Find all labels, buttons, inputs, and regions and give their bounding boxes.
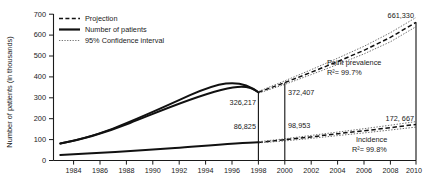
y-tick-label-500: 500 [34,51,46,60]
x-tick-label-1990: 1990 [145,166,161,175]
value-label-172667: 172, 667 [386,114,414,123]
annotation-incidence-r2: R²= 99.8% [352,145,387,154]
legend-label-projection: Projection [85,14,117,23]
y-axis-title: Number of patients (in thousands) [5,36,14,147]
annotation-incidence: Incidence [356,135,387,144]
value-label-98953: 98,953 [288,121,310,130]
x-tick-label-2004: 2004 [330,166,346,175]
x-tick-label-1988: 1988 [118,166,134,175]
x-axis-ticks: 1984 1986 1988 1990 1992 1994 1996 1998 … [66,161,422,176]
x-tick-label-2002: 2002 [303,166,319,175]
chart-container: Number of patients (in thousands) 0 100 … [0,0,428,185]
value-label-661330: 661,330 [388,11,414,20]
series-point-prevalence-observed [60,83,258,143]
y-tick-label-0: 0 [42,156,46,165]
value-label-372407: 372,407 [288,88,314,97]
x-tick-label-1998: 1998 [250,166,266,175]
y-tick-label-400: 400 [34,72,46,81]
legend-label-number-of-patients: Number of patients [85,25,147,34]
series-incidence-observed [60,142,258,155]
y-tick-label-300: 300 [34,93,46,102]
x-tick-label-1994: 1994 [198,166,214,175]
y-tick-label-700: 700 [34,10,46,19]
x-tick-label-2010: 2010 [406,166,422,175]
legend-label-confidence-interval: 95% Confidence interval [85,36,164,45]
chart-legend: Projection Number of patients 95% Confid… [59,14,164,45]
series-incidence-ci-upper [258,122,416,142]
x-tick-label-1992: 1992 [171,166,187,175]
x-tick-label-1986: 1986 [92,166,108,175]
projection-line-chart: Number of patients (in thousands) 0 100 … [0,0,428,185]
value-label-326217: 326,217 [230,98,256,107]
annotation-point-prevalence: Point prevalence [327,58,381,67]
y-tick-label-600: 600 [34,30,46,39]
series-incidence-projection [258,124,416,142]
annotation-point-prevalence-r2: R²= 99.7% [327,68,362,77]
y-axis-ticks: 0 100 200 300 400 500 600 700 [34,10,54,165]
x-tick-label-1984: 1984 [66,166,82,175]
x-tick-label-2008: 2008 [382,166,398,175]
x-tick-label-1996: 1996 [224,166,240,175]
y-tick-label-200: 200 [34,114,46,123]
value-label-86825: 86,825 [234,122,256,131]
x-tick-label-2006: 2006 [356,166,372,175]
x-tick-label-2000: 2000 [277,166,293,175]
series-point-prevalence-ci-upper [258,18,416,92]
y-tick-label-100: 100 [34,135,46,144]
series-point-prevalence-observed-curve [60,87,258,144]
